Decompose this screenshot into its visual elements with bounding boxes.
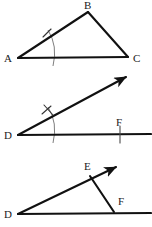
vertex-label-f-panel2: F <box>116 116 122 128</box>
vertex-label-d-panel3: D <box>4 208 12 220</box>
geometry-figure: A B C D F D E F <box>0 0 152 227</box>
vertex-label-a: A <box>4 52 12 64</box>
vertex-label-e-panel3: E <box>84 160 91 172</box>
vertex-label-c: C <box>133 52 140 64</box>
vertex-label-f-panel3: F <box>118 195 124 207</box>
baseline-df-panel3 <box>18 213 151 214</box>
baseline-df-panel2 <box>18 134 151 135</box>
figure-background <box>0 0 152 227</box>
angle-construction-svg: A B C D F D E F <box>0 0 152 227</box>
vertex-label-b: B <box>84 0 91 11</box>
segment-ac <box>18 57 128 58</box>
vertex-label-d-panel2: D <box>4 129 12 141</box>
